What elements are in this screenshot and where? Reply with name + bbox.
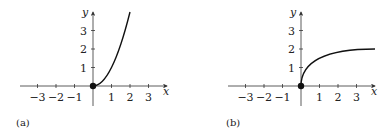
panel-a: −3 −2 −1 1 2 3 1 2 3 x y (a) <box>16 6 170 128</box>
x-tick-label: 3 <box>145 91 152 104</box>
x-tick-label: −2 <box>48 91 64 104</box>
panel-caption: (b) <box>226 117 240 128</box>
y-tick-label: 1 <box>80 62 87 75</box>
x-tick-label: 2 <box>335 91 342 104</box>
x-axis-label: x <box>371 85 378 98</box>
y-tick-label: 3 <box>80 25 87 38</box>
x-tick-label: 1 <box>108 91 115 104</box>
start-point-dot <box>90 83 96 89</box>
y-tick-label: 2 <box>288 43 295 56</box>
start-point-dot <box>298 83 304 89</box>
panel-caption: (a) <box>16 117 30 128</box>
x-tick-label: −3 <box>29 91 45 104</box>
curve-square-root <box>301 49 375 86</box>
x-axis-label: x <box>163 85 170 98</box>
curve-parabola <box>93 12 130 86</box>
x-tick-label: 2 <box>127 91 134 104</box>
y-tick-label: 2 <box>80 43 87 56</box>
y-tick-label: 1 <box>288 62 295 75</box>
x-tick-label: 3 <box>353 91 360 104</box>
y-axis-label: y <box>81 6 89 19</box>
y-axis-label: y <box>289 6 297 19</box>
x-tick-label: 1 <box>316 91 323 104</box>
y-tick-label: 3 <box>288 25 295 38</box>
panel-b: −3 −2 −1 1 2 3 1 2 3 x y (b) <box>226 6 378 128</box>
x-tick-label: −1 <box>66 91 82 104</box>
x-tick-label: −1 <box>274 91 290 104</box>
figure: −3 −2 −1 1 2 3 1 2 3 x y (a) <box>0 0 392 138</box>
x-tick-label: −3 <box>237 91 253 104</box>
x-tick-label: −2 <box>256 91 272 104</box>
